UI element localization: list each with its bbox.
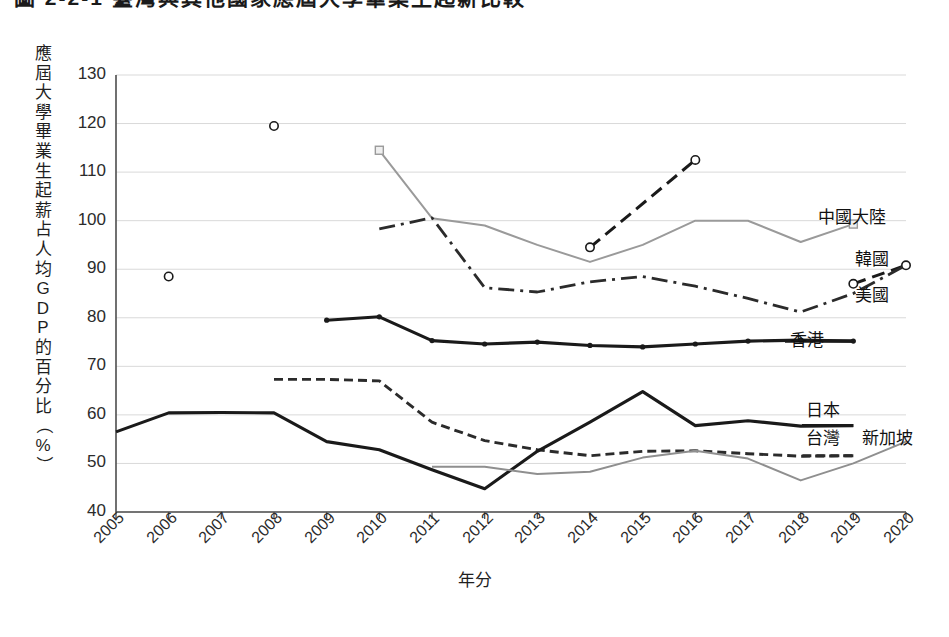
y-tick-label: 60 bbox=[62, 404, 106, 424]
series-日本 bbox=[274, 379, 853, 456]
series-label-美國: 美國 bbox=[855, 281, 889, 306]
series-label-新加坡: 新加坡 bbox=[862, 424, 913, 449]
series-line bbox=[379, 150, 853, 262]
series-韓國 bbox=[164, 122, 910, 288]
series-中國大陸 bbox=[375, 146, 857, 262]
data-point-marker bbox=[482, 341, 487, 346]
data-point-marker bbox=[745, 338, 750, 343]
series-美國 bbox=[379, 218, 906, 312]
data-point-marker bbox=[586, 243, 594, 251]
series-line bbox=[274, 379, 853, 456]
data-point-marker bbox=[535, 339, 540, 344]
series-香港 bbox=[324, 314, 856, 349]
data-point-marker bbox=[429, 338, 434, 343]
y-tick-label: 40 bbox=[62, 501, 106, 521]
data-point-marker bbox=[164, 272, 172, 280]
series-line bbox=[327, 317, 854, 347]
y-tick-label: 50 bbox=[62, 452, 106, 472]
y-tick-label: 100 bbox=[62, 210, 106, 230]
y-tick-label: 70 bbox=[62, 355, 106, 375]
data-point-marker bbox=[377, 314, 382, 319]
data-point-marker bbox=[324, 318, 329, 323]
y-tick-label: 80 bbox=[62, 307, 106, 327]
series-label-日本: 日本 bbox=[806, 396, 840, 421]
series-segment bbox=[590, 160, 695, 247]
data-point-marker bbox=[640, 344, 645, 349]
data-point-marker bbox=[691, 156, 699, 164]
data-point-marker bbox=[270, 122, 278, 130]
series-label-中國大陸: 中國大陸 bbox=[818, 203, 886, 228]
chart-figure: 圖 2-2-1 臺灣與其他國家應屆大學畢業生起薪比較 應屆大學畢業生起薪占人均G… bbox=[0, 0, 949, 637]
y-tick-label: 110 bbox=[62, 161, 106, 181]
data-point-marker bbox=[587, 343, 592, 348]
series-label-香港: 香港 bbox=[790, 326, 824, 351]
data-point-marker bbox=[902, 261, 910, 269]
data-point-marker bbox=[375, 146, 383, 154]
data-point-marker bbox=[693, 341, 698, 346]
y-tick-label: 120 bbox=[62, 113, 106, 133]
y-tick-label: 90 bbox=[62, 258, 106, 278]
series-label-台灣: 台灣 bbox=[806, 424, 840, 449]
x-tick-marks bbox=[116, 512, 906, 519]
series-layer bbox=[116, 122, 910, 489]
y-tick-label: 130 bbox=[62, 64, 106, 84]
series-line bbox=[379, 218, 906, 312]
series-label-韓國: 韓國 bbox=[855, 245, 889, 270]
